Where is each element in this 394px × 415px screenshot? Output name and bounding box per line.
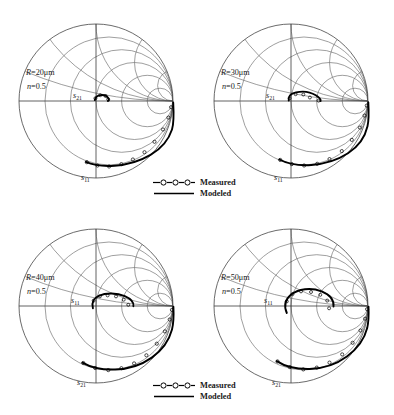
legend-row-modeled-top: Modeled [152, 188, 236, 199]
legend-row-modeled-bottom: Modeled [152, 391, 236, 402]
legend-measured-label-top: Measured [200, 177, 236, 188]
smith-chart-r40: R=40μm n=0.5 s11 s21 [8, 215, 190, 397]
panel-r50: R=50μm n=0.5 s11 s21 [203, 215, 385, 397]
smith-chart-r20: R=20μm n=0.5 s21 s11 [8, 10, 190, 192]
legend-row-measured-bottom: Measured [152, 380, 236, 391]
legend-measured-label-bottom: Measured [200, 380, 236, 391]
panel-r50-R-label: R=50μm [220, 273, 250, 282]
panel-r50-center-trace-label: s11 [264, 296, 273, 306]
modeled-symbol-icon [152, 188, 196, 199]
legend-top: Measured Modeled [152, 177, 236, 199]
legend-row-measured-top: Measured [152, 177, 236, 188]
panel-r20: R=20μm n=0.5 s21 s11 [8, 10, 190, 192]
panel-r50-outer-trace-label: s21 [272, 378, 281, 388]
legend-bottom: Measured Modeled [152, 380, 236, 402]
panel-r50-n-label: n=0.5 [222, 287, 241, 296]
panel-r20-center-trace-label: s21 [73, 91, 82, 101]
measured-symbol-icon [152, 177, 196, 188]
panel-r20-R-label: R=20μm [25, 68, 55, 77]
panel-r40-outer-trace-label: s21 [77, 378, 86, 388]
panel-r30: R=30μm n=0.5 s21 s11 [203, 10, 385, 192]
panel-r40-n-label: n=0.5 [27, 287, 46, 296]
measured-symbol-icon [152, 380, 196, 391]
panel-r40: R=40μm n=0.5 s11 s21 [8, 215, 190, 397]
panel-r20-n-label: n=0.5 [27, 82, 46, 91]
panel-r30-center-trace-label: s21 [266, 91, 275, 101]
panel-r20-outer-trace-label: s11 [81, 173, 90, 183]
legend-modeled-label-top: Modeled [200, 188, 231, 199]
panel-r40-R-label: R=40μm [25, 273, 55, 282]
panel-r30-R-label: R=30μm [220, 68, 250, 77]
legend-modeled-label-bottom: Modeled [200, 391, 231, 402]
s21-measured-markers-r50 [276, 308, 369, 371]
panel-r30-outer-trace-label: s11 [274, 173, 283, 183]
modeled-symbol-icon [152, 391, 196, 402]
smith-chart-figure: R=20μm n=0.5 s21 s11 [0, 0, 394, 415]
smith-chart-r30: R=30μm n=0.5 s21 s11 [203, 10, 385, 192]
panel-r30-n-label: n=0.5 [222, 82, 241, 91]
panel-r40-center-trace-label: s11 [71, 296, 80, 306]
smith-chart-r50: R=50μm n=0.5 s11 s21 [203, 215, 385, 397]
